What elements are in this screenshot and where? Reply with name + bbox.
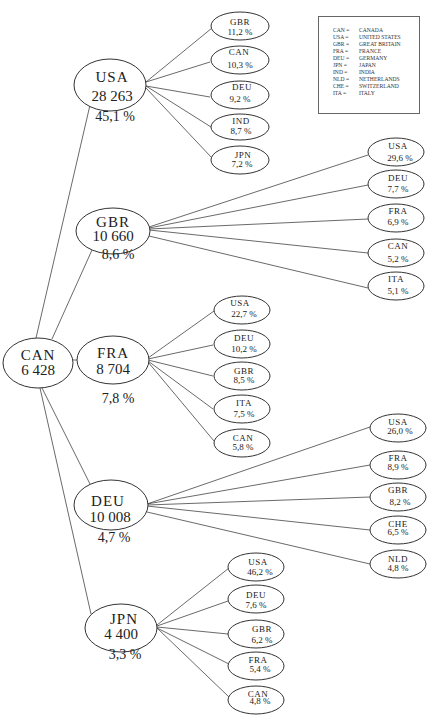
- root-node-can: CAN 6 428: [3, 338, 73, 388]
- legend-box: CAN =CANADA USA =UNITED STATES GBR =GREA…: [318, 16, 420, 114]
- legend-code: NLD =: [333, 76, 359, 83]
- node-value: 8 704: [96, 361, 130, 377]
- legend-row: FRA =FRANCE: [333, 48, 419, 55]
- svg-text:ITA: ITA: [388, 274, 404, 284]
- svg-text:DEU: DEU: [388, 173, 408, 183]
- svg-text:46,2 %: 46,2 %: [247, 567, 273, 577]
- fra-child-can: CAN 5,8 %: [214, 429, 270, 457]
- gbr-child-deu: DEU 7,7 %: [368, 170, 424, 198]
- legend-row: ITA =ITALY: [333, 90, 419, 97]
- svg-text:CAN: CAN: [388, 241, 409, 251]
- partner-share-usa: 45,1 %: [95, 109, 135, 124]
- usa-child-gbr: GBR 11,2 %: [211, 12, 269, 40]
- legend-code: ITA =: [333, 90, 359, 97]
- legend-name: GERMANY: [359, 55, 387, 62]
- legend-row: GBR =GREAT BRITAIN: [333, 41, 419, 48]
- svg-text:8,5 %: 8,5 %: [234, 375, 256, 385]
- svg-text:8,7 %: 8,7 %: [231, 126, 253, 136]
- svg-text:10,2 %: 10,2 %: [231, 344, 257, 354]
- svg-text:10,3 %: 10,3 %: [227, 60, 253, 70]
- partner-node-jpn: JPN 4 400: [85, 604, 157, 652]
- legend-row: NLD =NETHERLANDS: [333, 76, 419, 83]
- jpn-child-can: CAN 4,8 %: [228, 686, 284, 714]
- partner-share-gbr: 8,6 %: [102, 247, 135, 262]
- usa-child-can: CAN 10,3 %: [211, 46, 269, 74]
- svg-text:4,8 %: 4,8 %: [388, 563, 410, 573]
- gbr-connectors: [149, 155, 368, 288]
- svg-text:FRA: FRA: [388, 206, 407, 216]
- svg-text:22,7 %: 22,7 %: [231, 309, 257, 319]
- legend-name: CANADA: [359, 27, 383, 34]
- svg-text:7,6 %: 7,6 %: [246, 600, 268, 610]
- svg-text:8,9 %: 8,9 %: [388, 462, 410, 472]
- svg-text:5,1 %: 5,1 %: [388, 286, 410, 296]
- node-code: FRA: [97, 345, 129, 361]
- node-code: CAN: [21, 347, 56, 363]
- legend-name: SWITZERLAND: [359, 83, 399, 90]
- node-value: 4 400: [104, 626, 138, 642]
- svg-text:6,9 %: 6,9 %: [388, 217, 410, 227]
- legend-code: USA =: [333, 34, 359, 41]
- jpn-child-deu: DEU 7,6 %: [228, 585, 284, 613]
- jpn-child-gbr: GBR 6,2 %: [228, 620, 284, 648]
- legend-row: DEU =GERMANY: [333, 55, 419, 62]
- partner-share-jpn: 3,3 %: [109, 647, 142, 662]
- legend-name: JAPAN: [359, 62, 376, 69]
- svg-text:7,5 %: 7,5 %: [234, 409, 256, 419]
- legend-code: DEU =: [333, 55, 359, 62]
- svg-text:6,2 %: 6,2 %: [252, 635, 274, 645]
- svg-text:9,2 %: 9,2 %: [230, 94, 252, 104]
- legend-row: JPN =JAPAN: [333, 62, 419, 69]
- legend-name: NETHERLANDS: [359, 76, 400, 83]
- svg-text:11,2 %: 11,2 %: [227, 27, 253, 37]
- legend-row: IND =INDIA: [333, 69, 419, 76]
- legend-code: FRA =: [333, 48, 359, 55]
- gbr-child-can: CAN 5,2 %: [368, 239, 424, 267]
- svg-text:ITA: ITA: [236, 398, 252, 408]
- svg-text:USA: USA: [388, 141, 408, 151]
- fra-child-ita: ITA 7,5 %: [214, 395, 270, 423]
- svg-text:USA: USA: [248, 557, 268, 567]
- svg-text:USA: USA: [230, 298, 250, 308]
- deu-child-nld: NLD 4,8 %: [370, 550, 426, 578]
- svg-text:IND: IND: [232, 116, 250, 126]
- legend-row: USA =UNITED STATES: [333, 34, 419, 41]
- svg-text:7,2 %: 7,2 %: [232, 159, 254, 169]
- legend-row: CHE =SWITZERLAND: [333, 83, 419, 90]
- deu-child-usa: USA 26,0 %: [370, 414, 426, 442]
- svg-text:DEU: DEU: [246, 590, 266, 600]
- usa-connectors: [146, 28, 212, 158]
- node-value: 10 660: [92, 228, 133, 244]
- deu-child-gbr: GBR 8,2 %: [370, 483, 426, 511]
- node-value: 10 008: [89, 509, 130, 525]
- jpn-connectors: [157, 568, 229, 697]
- svg-text:GBR: GBR: [252, 624, 272, 634]
- node-value: 28 263: [91, 88, 132, 104]
- svg-text:6,5 %: 6,5 %: [388, 527, 410, 537]
- legend-name: GREAT BRITAIN: [359, 41, 401, 48]
- gbr-child-ita: ITA 5,1 %: [368, 272, 424, 300]
- node-code: USA: [95, 69, 128, 85]
- svg-text:26,0 %: 26,0 %: [387, 426, 413, 436]
- node-value: 6 428: [21, 362, 55, 378]
- legend-name: UNITED STATES: [359, 34, 401, 41]
- partner-node-usa: USA 28 263: [74, 59, 146, 111]
- legend-row: CAN =CANADA: [333, 27, 419, 34]
- fra-connectors: [148, 311, 214, 441]
- svg-text:GBR: GBR: [388, 485, 408, 495]
- legend-name: ITALY: [359, 90, 375, 97]
- node-code: JPN: [110, 611, 138, 627]
- deu-child-fra: FRA 8,9 %: [370, 451, 426, 479]
- partner-share-fra: 7,8 %: [102, 391, 135, 406]
- svg-text:DEU: DEU: [232, 82, 252, 92]
- svg-text:4,8 %: 4,8 %: [250, 696, 272, 706]
- gbr-child-usa: USA 29,6 %: [368, 138, 424, 166]
- svg-text:CAN: CAN: [229, 47, 250, 57]
- partner-share-deu: 4,7 %: [98, 530, 131, 545]
- node-code: DEU: [91, 493, 125, 509]
- svg-text:5,4 %: 5,4 %: [250, 664, 272, 674]
- partner-node-deu: DEU 10 008: [74, 480, 148, 530]
- legend-code: IND =: [333, 69, 359, 76]
- legend-name: INDIA: [359, 69, 375, 76]
- fra-child-gbr: GBR 8,5 %: [214, 362, 270, 390]
